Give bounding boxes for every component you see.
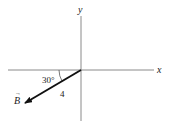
x-axis-label: x bbox=[156, 64, 162, 75]
angle-label: 30° bbox=[42, 75, 55, 85]
angle-arc bbox=[59, 70, 62, 81]
y-axis-label: y bbox=[77, 4, 83, 15]
magnitude-label: 4 bbox=[60, 89, 65, 99]
vector-diagram: x y 30° 4 B → bbox=[0, 0, 170, 122]
vector-arrow-symbol: → bbox=[15, 90, 21, 96]
vector-b-label: B bbox=[14, 95, 20, 106]
